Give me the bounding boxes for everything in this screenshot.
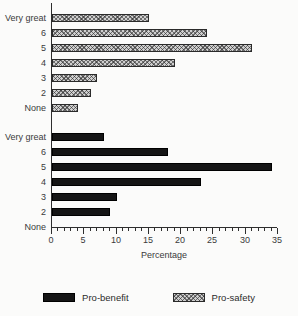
x-minor-tick bbox=[238, 228, 239, 231]
bar-row: 6 bbox=[0, 145, 298, 160]
pro-safety-bar bbox=[52, 59, 175, 67]
pro-safety-bar bbox=[52, 44, 252, 52]
grouped-bar-chart: Very great65432NoneVery great65432None 0… bbox=[0, 0, 298, 316]
x-tick-label: 10 bbox=[106, 235, 126, 245]
legend-label-pro-benefit: Pro-benefit bbox=[82, 292, 128, 303]
category-label: Very great bbox=[0, 130, 46, 145]
bar-row: 5 bbox=[0, 160, 298, 175]
legend-item-pro-safety: Pro-safety bbox=[173, 292, 255, 303]
x-minor-tick bbox=[70, 228, 71, 231]
x-axis-baseline bbox=[51, 227, 277, 228]
legend-item-pro-benefit: Pro-benefit bbox=[43, 292, 128, 303]
pro-safety-bar bbox=[52, 74, 97, 82]
pro-safety-bar bbox=[52, 104, 78, 112]
x-tick-label: 30 bbox=[235, 235, 255, 245]
x-major-tick bbox=[180, 228, 181, 234]
bar-row: 4 bbox=[0, 175, 298, 190]
category-label: 5 bbox=[0, 41, 46, 56]
x-minor-tick bbox=[109, 228, 110, 231]
bar-row: 6 bbox=[0, 26, 298, 41]
pro-safety-swatch-icon bbox=[173, 293, 205, 302]
pro-safety-bar bbox=[52, 29, 207, 37]
x-tick-label: 35 bbox=[267, 235, 287, 245]
x-minor-tick bbox=[174, 228, 175, 231]
bar-row: 4 bbox=[0, 56, 298, 71]
bar-row: 3 bbox=[0, 71, 298, 86]
category-label: Very great bbox=[0, 11, 46, 26]
x-major-tick bbox=[51, 228, 52, 234]
category-label: 2 bbox=[0, 86, 46, 101]
pro-benefit-bar bbox=[52, 148, 168, 156]
x-minor-tick bbox=[251, 228, 252, 231]
x-major-tick bbox=[148, 228, 149, 234]
x-tick-label: 20 bbox=[170, 235, 190, 245]
x-minor-tick bbox=[161, 228, 162, 231]
category-label: 6 bbox=[0, 145, 46, 160]
x-major-tick bbox=[212, 228, 213, 234]
x-major-tick bbox=[277, 228, 278, 234]
pro-safety-bar bbox=[52, 89, 91, 97]
x-major-tick bbox=[116, 228, 117, 234]
x-minor-tick bbox=[77, 228, 78, 231]
x-minor-tick bbox=[219, 228, 220, 231]
x-tick-label: 25 bbox=[202, 235, 222, 245]
x-minor-tick bbox=[225, 228, 226, 231]
bar-row: 3 bbox=[0, 190, 298, 205]
x-minor-tick bbox=[64, 228, 65, 231]
category-label: 5 bbox=[0, 160, 46, 175]
pro-benefit-bar bbox=[52, 178, 201, 186]
x-minor-tick bbox=[103, 228, 104, 231]
bar-row: 2 bbox=[0, 86, 298, 101]
x-minor-tick bbox=[90, 228, 91, 231]
x-minor-tick bbox=[96, 228, 97, 231]
x-minor-tick bbox=[206, 228, 207, 231]
x-minor-tick bbox=[167, 228, 168, 231]
pro-benefit-bar bbox=[52, 208, 110, 216]
x-minor-tick bbox=[154, 228, 155, 231]
x-tick-label: 5 bbox=[73, 235, 93, 245]
x-minor-tick bbox=[232, 228, 233, 231]
bar-row: Very great bbox=[0, 11, 298, 26]
x-minor-tick bbox=[187, 228, 188, 231]
x-minor-tick bbox=[193, 228, 194, 231]
x-minor-tick bbox=[122, 228, 123, 231]
bar-row: 5 bbox=[0, 41, 298, 56]
x-minor-tick bbox=[141, 228, 142, 231]
pro-benefit-bar bbox=[52, 133, 104, 141]
category-label: 2 bbox=[0, 205, 46, 220]
x-minor-tick bbox=[264, 228, 265, 231]
x-major-tick bbox=[245, 228, 246, 234]
category-label: 3 bbox=[0, 71, 46, 86]
x-tick-label: 0 bbox=[41, 235, 61, 245]
category-label: 4 bbox=[0, 175, 46, 190]
plot-area: Very great65432NoneVery great65432None bbox=[0, 0, 298, 228]
x-minor-tick bbox=[258, 228, 259, 231]
category-label: None bbox=[0, 101, 46, 116]
legend-label-pro-safety: Pro-safety bbox=[212, 292, 255, 303]
bar-row: Very great bbox=[0, 130, 298, 145]
pro-benefit-swatch-icon bbox=[43, 293, 75, 302]
category-label: 6 bbox=[0, 26, 46, 41]
legend: Pro-benefit Pro-safety bbox=[0, 292, 298, 303]
pro-safety-bar bbox=[52, 14, 149, 22]
pro-benefit-bar bbox=[52, 193, 117, 201]
category-label: 3 bbox=[0, 190, 46, 205]
bar-row: None bbox=[0, 101, 298, 116]
x-minor-tick bbox=[135, 228, 136, 231]
x-minor-tick bbox=[271, 228, 272, 231]
x-axis-title: Percentage bbox=[51, 250, 277, 260]
x-minor-tick bbox=[57, 228, 58, 231]
x-tick-label: 15 bbox=[138, 235, 158, 245]
x-major-tick bbox=[83, 228, 84, 234]
x-minor-tick bbox=[200, 228, 201, 231]
x-minor-tick bbox=[128, 228, 129, 231]
category-label: 4 bbox=[0, 56, 46, 71]
bar-row: 2 bbox=[0, 205, 298, 220]
pro-benefit-bar bbox=[52, 163, 272, 171]
